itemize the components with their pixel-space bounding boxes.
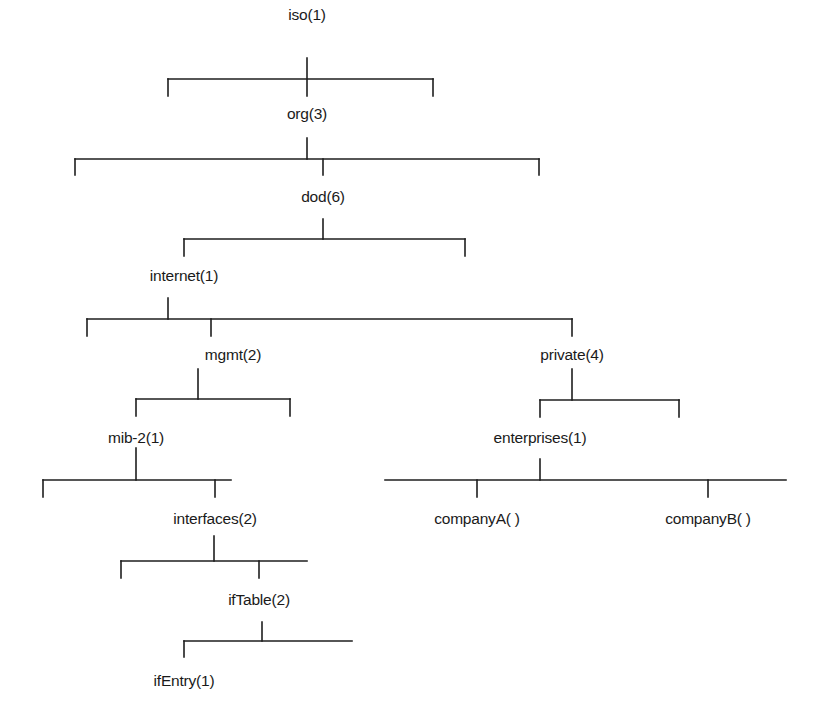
iso-branch [168, 58, 433, 96]
internet-branch [87, 298, 572, 336]
node-company-b: companyB( ) [665, 511, 751, 527]
node-iftable: ifTable(2) [228, 592, 290, 608]
node-interfaces: interfaces(2) [173, 511, 257, 527]
node-ifentry: ifEntry(1) [154, 673, 215, 689]
mib2-branch [43, 448, 231, 497]
node-company-a: companyA( ) [434, 511, 520, 527]
interfaces-branch [121, 536, 307, 578]
node-org: org(3) [287, 106, 327, 122]
node-mib-2: mib-2(1) [108, 430, 164, 446]
mgmt-branch [136, 369, 290, 416]
private-branch [540, 369, 679, 417]
node-enterprises: enterprises(1) [494, 430, 587, 446]
org-branch [75, 138, 539, 175]
node-iso: iso(1) [288, 7, 326, 23]
dod-branch [184, 219, 465, 256]
iftable-branch [184, 622, 352, 657]
node-private: private(4) [540, 347, 603, 363]
tree-connector-lines [0, 0, 813, 722]
mib-tree-diagram: iso(1) org(3) dod(6) internet(1) mgmt(2)… [0, 0, 813, 722]
node-internet: internet(1) [150, 268, 218, 284]
enterprises-branch [385, 459, 786, 497]
node-mgmt: mgmt(2) [205, 347, 261, 363]
node-dod: dod(6) [301, 189, 345, 205]
